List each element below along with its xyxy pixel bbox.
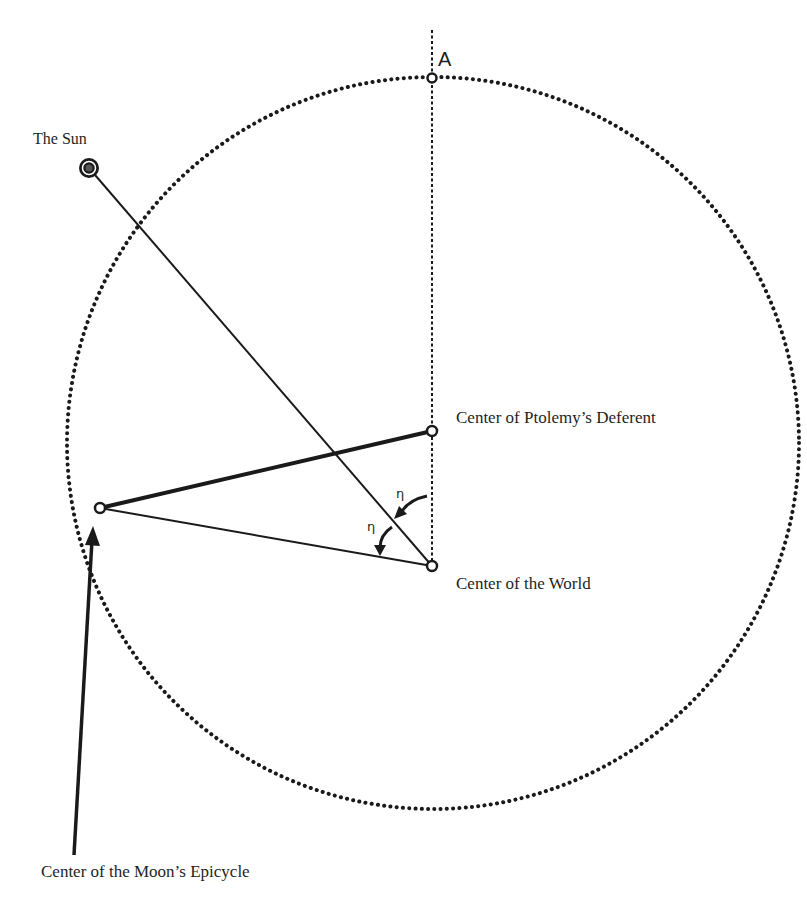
sun-label: The Sun [33, 130, 87, 148]
point-a-label: A [438, 48, 451, 71]
deferent-center-label: Center of Ptolemy’s Deferent [456, 408, 656, 428]
angle-arrow-2 [380, 527, 392, 548]
world-center-marker [427, 561, 437, 571]
angle-arrow-2-head [374, 545, 386, 556]
deferent-center-marker [427, 426, 437, 436]
epicycle-pointer-arrow-head [85, 526, 100, 546]
sun-icon-core [86, 165, 93, 172]
sun-line [89, 168, 432, 566]
angle-eta-label-1: η [396, 486, 404, 501]
deferent-radius-line [100, 431, 432, 508]
angle-eta-label-2: η [367, 519, 375, 534]
epicycle-center-marker [95, 503, 105, 513]
world-center-label: Center of the World [456, 574, 591, 594]
ptolemy-lunar-diagram [0, 0, 807, 917]
epicycle-pointer-arrow [74, 540, 92, 855]
epicycle-center-label: Center of the Moon’s Epicycle [41, 862, 250, 882]
point-a-marker [428, 74, 437, 83]
angle-arrow-1 [401, 496, 427, 513]
